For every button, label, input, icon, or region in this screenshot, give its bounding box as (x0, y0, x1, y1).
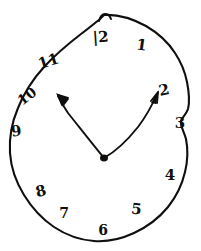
numeral-7: 7 (59, 205, 69, 221)
clock-hands-center (100, 155, 108, 162)
numeral-1: 1 (135, 35, 148, 54)
clock-hand-right (104, 90, 159, 158)
numeral-10: 10 (14, 84, 39, 109)
clock-drawing-svg: |2 1 2 3 4 5 6 7 8 9 10 11 (0, 0, 201, 251)
numeral-12: |2 (92, 27, 109, 46)
clock-hands (56, 90, 159, 161)
clock-hand-left (56, 93, 104, 158)
numeral-8: 8 (34, 181, 48, 201)
numeral-4: 4 (165, 166, 175, 184)
clock-numerals: |2 1 2 3 4 5 6 7 8 9 10 11 (10, 27, 185, 238)
numeral-6: 6 (98, 222, 108, 238)
numeral-2: 2 (157, 80, 171, 100)
numeral-5: 5 (130, 200, 142, 219)
numeral-3: 3 (175, 114, 185, 132)
clock-drawing-canvas: |2 1 2 3 4 5 6 7 8 9 10 11 (0, 0, 201, 251)
numeral-9: 9 (10, 121, 23, 140)
clock-outline (10, 14, 189, 241)
